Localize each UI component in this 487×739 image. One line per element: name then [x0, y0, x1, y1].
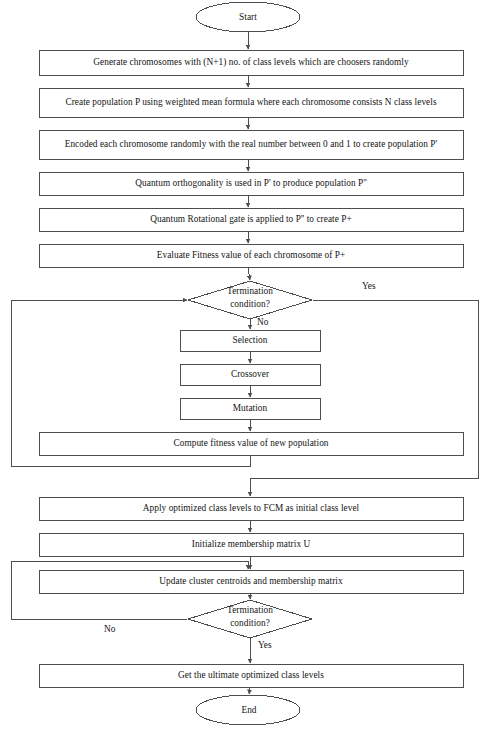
shape-compute-fitness: [39, 432, 463, 455]
shape-generate: [39, 50, 463, 75]
shape-termination-1: [188, 281, 312, 319]
shape-end: [196, 695, 300, 725]
shape-orthogonality: [39, 172, 463, 195]
shape-selection: [180, 330, 320, 351]
flowchart-canvas: Start Generate chromosomes with (N+1) no…: [0, 0, 487, 739]
edge-evaluate-to-termination1: [248, 267, 250, 280]
shape-create-population: [39, 88, 463, 117]
edge-get-to-end: [249, 687, 250, 694]
shape-mutation: [180, 398, 320, 419]
shape-rotational-gate: [39, 208, 463, 231]
shape-get-levels: [39, 664, 463, 687]
flowchart-graphics: [0, 0, 487, 739]
shape-start: [196, 2, 300, 32]
shape-apply-levels: [39, 497, 463, 520]
shape-encode: [39, 130, 463, 159]
shape-termination-2: [188, 600, 312, 638]
shape-update-centroids: [39, 570, 463, 593]
shape-init-membership: [39, 533, 463, 556]
shape-evaluate-fitness: [39, 244, 463, 267]
shape-crossover: [180, 364, 320, 385]
